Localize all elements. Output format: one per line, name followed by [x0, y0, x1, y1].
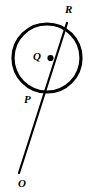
geometry-figure: R Q P O	[0, 0, 93, 195]
point-label-o: O	[18, 178, 26, 189]
point-label-r: R	[65, 4, 72, 15]
point-label-q: Q	[33, 51, 41, 62]
figure-canvas	[0, 0, 93, 195]
point-label-p: P	[24, 94, 31, 105]
center-point-dot-icon	[47, 55, 53, 61]
circle-shape	[13, 24, 81, 92]
